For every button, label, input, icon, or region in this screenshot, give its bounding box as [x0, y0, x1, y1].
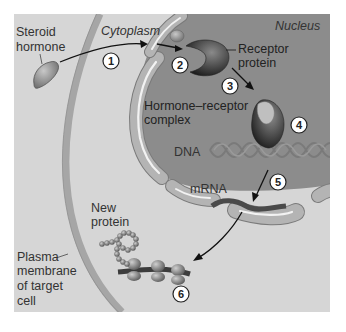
label-receptor-2: protein — [238, 56, 276, 70]
label-plasma-3: of target — [17, 279, 63, 293]
label-plasma-4: cell — [17, 294, 36, 308]
step-5-number: 5 — [275, 176, 281, 188]
label-steroid-hormone-1: Steroid — [16, 25, 56, 39]
label-dna: DNA — [174, 145, 201, 159]
label-new-protein-1: New — [91, 201, 117, 215]
step-3-badge: 3 — [222, 78, 238, 94]
step-1-badge: 1 — [103, 53, 119, 69]
step-1-number: 1 — [108, 55, 114, 67]
step-6-badge: 6 — [173, 286, 189, 302]
label-complex-1: Hormone–receptor — [144, 99, 248, 113]
label-steroid-hormone-2: hormone — [16, 40, 65, 54]
label-plasma-2: membrane — [17, 264, 77, 278]
label-nucleus: Nucleus — [275, 19, 320, 33]
step-2-badge: 2 — [172, 57, 188, 73]
steroid-hormone-diagram: 1 2 3 4 5 6 Steroid hormone Cytoplasm Nu… — [0, 0, 346, 332]
label-new-protein-2: protein — [91, 215, 129, 229]
step-5-badge: 5 — [270, 174, 286, 190]
step-6-number: 6 — [178, 288, 184, 300]
label-mrna: mRNA — [190, 182, 227, 196]
label-cytoplasm: Cytoplasm — [101, 24, 160, 38]
step-4-number: 4 — [296, 119, 303, 131]
step-4-badge: 4 — [291, 117, 307, 133]
hormone-entering — [170, 30, 184, 42]
label-plasma-1: Plasma — [17, 250, 59, 264]
step-2-number: 2 — [177, 59, 183, 71]
label-receptor-1: Receptor — [238, 42, 289, 56]
label-complex-2: complex — [144, 113, 191, 127]
step-3-number: 3 — [227, 80, 233, 92]
